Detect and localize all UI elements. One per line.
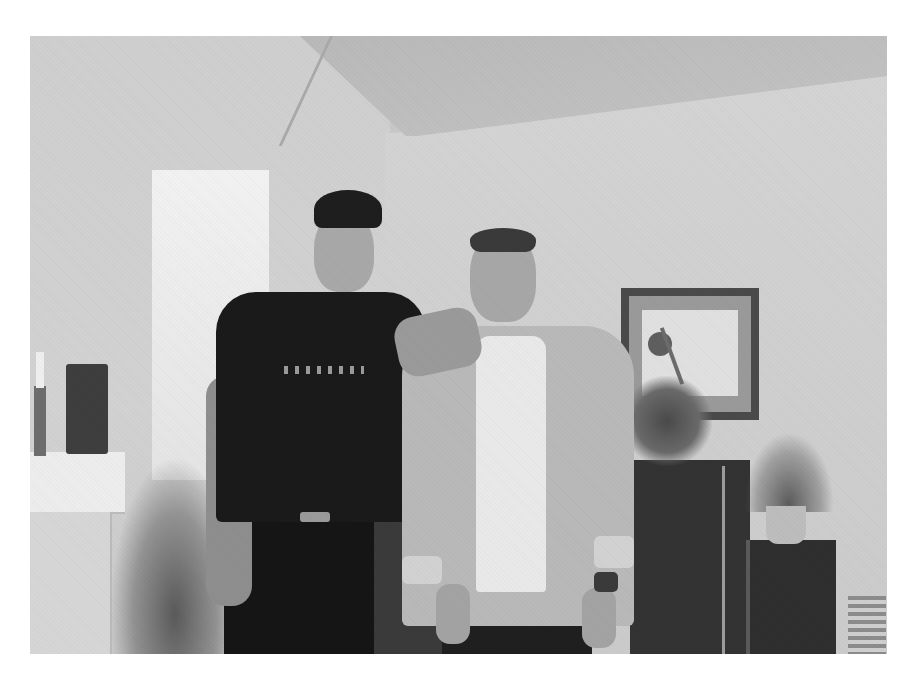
cabinet [630, 460, 750, 654]
right-man-hair [470, 228, 536, 252]
candle [36, 352, 44, 388]
fireplace [30, 512, 112, 654]
right-man-white-tshirt [476, 336, 546, 592]
candlestick [34, 386, 46, 456]
potted-plant-leaves [744, 432, 834, 512]
cabinet-door-edge [722, 466, 725, 654]
left-man-tshirt [216, 292, 426, 522]
leafy-plant [622, 376, 712, 466]
photograph [30, 36, 887, 654]
floor-speaker [746, 540, 836, 654]
wristwatch [594, 572, 618, 592]
small-speaker [66, 364, 108, 454]
rolled-cuff-left [402, 556, 442, 584]
right-man-hand-left [436, 584, 470, 644]
right-man-hand-right [582, 588, 616, 648]
stacked-items [848, 596, 886, 654]
plant-pot [766, 506, 806, 544]
baseball-cap [314, 190, 382, 228]
belt-buckle [300, 512, 330, 522]
tshirt-lettering [284, 366, 364, 374]
rolled-cuff-right [594, 536, 634, 568]
